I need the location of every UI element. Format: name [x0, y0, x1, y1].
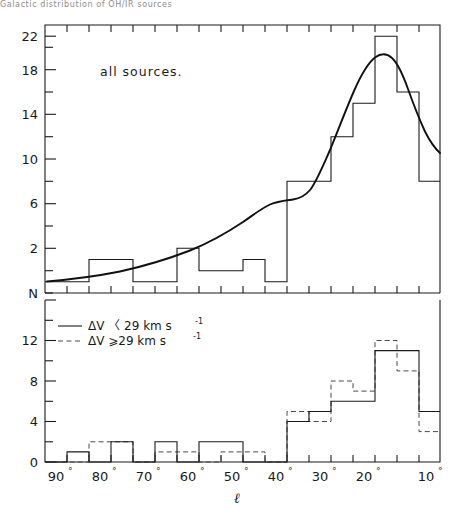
- bottom-panel: 12 8 4 0: [21, 300, 442, 506]
- x-label-80: 80: [92, 469, 109, 484]
- top-panel-fit-curve: [47, 54, 440, 281]
- degree-symbol-40: °: [288, 466, 293, 476]
- legend-label-high-dv: ΔV ⩾29 km s: [88, 334, 166, 348]
- legend-exponent-high-dv: -1: [193, 332, 201, 341]
- x-label-30: 30: [312, 469, 329, 484]
- figure-canvas: 22 18 14 10 6 2 N: [0, 0, 461, 509]
- bottom-panel-y-ticks: [45, 300, 56, 462]
- bottom-y-label-12: 12: [21, 333, 38, 348]
- top-panel-top-ticks: [67, 25, 419, 32]
- top-y-label-22: 22: [21, 29, 38, 44]
- x-label-60: 60: [180, 469, 197, 484]
- figure-root: Galactic distribution of OH/IR sources: [0, 0, 461, 509]
- degree-symbol-90: °: [68, 466, 73, 476]
- bottom-panel-legend: ΔV 〈 29 km s -1 ΔV ⩾29 km s -1: [58, 317, 203, 348]
- x-label-50: 50: [224, 469, 241, 484]
- bottom-y-label-4: 4: [30, 414, 38, 429]
- degree-symbol-10: °: [438, 466, 443, 476]
- top-y-label-N: N: [28, 286, 38, 301]
- x-axis-labels: 90 ° 80 ° 70 ° 60 ° 50 ° 40 ° 30 ° 20 ° …: [48, 466, 443, 484]
- top-y-label-18: 18: [21, 63, 38, 78]
- bottom-y-label-8: 8: [30, 374, 38, 389]
- top-panel-bottom-ticks: [67, 286, 419, 293]
- x-axis-title: ℓ: [234, 490, 240, 506]
- top-panel-y-ticks: [45, 36, 56, 293]
- top-panel-annotation: all sources.: [100, 64, 183, 79]
- top-y-label-2: 2: [30, 241, 38, 256]
- top-y-label-14: 14: [21, 107, 38, 122]
- degree-symbol-30: °: [332, 466, 337, 476]
- top-panel: 22 18 14 10 6 2 N: [21, 25, 440, 301]
- degree-symbol-20: °: [376, 466, 381, 476]
- legend-exponent-low-dv: -1: [195, 317, 203, 326]
- degree-symbol-60: °: [200, 466, 205, 476]
- bottom-histogram-low-dv: [45, 351, 440, 462]
- degree-symbol-80: °: [112, 466, 117, 476]
- bottom-y-label-0: 0: [30, 455, 38, 470]
- x-label-40: 40: [268, 469, 285, 484]
- x-label-20: 20: [356, 469, 373, 484]
- degree-symbol-70: °: [156, 466, 161, 476]
- x-label-70: 70: [136, 469, 153, 484]
- legend-label-low-dv: ΔV 〈 29 km s: [88, 319, 172, 333]
- top-y-label-10: 10: [21, 152, 38, 167]
- degree-symbol-50: °: [244, 466, 249, 476]
- x-label-90: 90: [48, 469, 65, 484]
- top-y-label-6: 6: [30, 196, 38, 211]
- x-label-10: 10: [418, 469, 435, 484]
